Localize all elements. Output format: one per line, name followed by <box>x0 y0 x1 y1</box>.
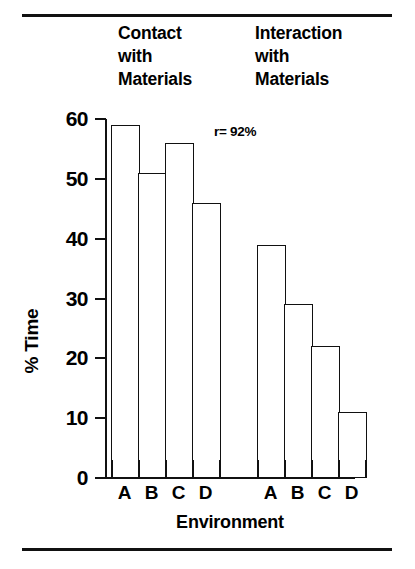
y-axis-label: % Time <box>21 286 43 396</box>
x-axis-ticks <box>107 460 357 478</box>
bar-g2-A <box>257 245 286 478</box>
x-tick-g1-2 <box>165 460 167 478</box>
bar-g1-A <box>111 125 140 478</box>
x-category-g2-B: B <box>284 482 311 504</box>
x-category-g1-C: C <box>165 482 192 504</box>
y-tick-20 <box>95 357 106 359</box>
y-tick-40 <box>95 238 106 240</box>
y-tick-label-30: 30 <box>42 288 88 309</box>
y-tick-50 <box>95 178 106 180</box>
x-tick-g2-0 <box>257 460 259 478</box>
x-category-g1-D: D <box>192 482 219 504</box>
x-tick-g2-2 <box>311 460 313 478</box>
x-tick-g2-4 <box>365 460 367 478</box>
bar-g2-C <box>311 346 340 478</box>
y-tick-label-10: 10 <box>42 407 88 428</box>
bars-container <box>107 119 357 478</box>
y-tick-label-40: 40 <box>42 228 88 249</box>
x-category-g1-A: A <box>111 482 138 504</box>
y-tick-label-0: 0 <box>42 467 88 488</box>
bar-g1-C <box>165 143 194 478</box>
bar-group-2 <box>257 119 365 478</box>
x-axis-label: Environment <box>105 512 355 533</box>
x-category-g2-A: A <box>257 482 284 504</box>
y-tick-60 <box>95 118 106 120</box>
y-tick-label-50: 50 <box>42 168 88 189</box>
x-tick-g2-1 <box>284 460 286 478</box>
x-tick-g1-4 <box>219 460 221 478</box>
x-tick-g1-1 <box>138 460 140 478</box>
x-tick-g1-0 <box>111 460 113 478</box>
bar-g1-B <box>138 173 167 478</box>
y-tick-label-20: 20 <box>42 347 88 368</box>
x-tick-g1-3 <box>192 460 194 478</box>
figure: Contact with Materials Interaction with … <box>0 0 415 569</box>
plot-area: 0102030405060 % Time r= 92% ABCDABCD Env… <box>0 0 415 569</box>
y-tick-30 <box>95 298 106 300</box>
x-category-g2-D: D <box>338 482 365 504</box>
x-category-g1-B: B <box>138 482 165 504</box>
x-category-g2-C: C <box>311 482 338 504</box>
y-tick-0 <box>95 477 106 479</box>
bar-g2-B <box>284 304 313 478</box>
bar-group-1 <box>111 119 219 478</box>
bar-g1-D <box>192 203 221 478</box>
x-tick-g2-3 <box>338 460 340 478</box>
y-tick-10 <box>95 417 106 419</box>
y-tick-label-60: 60 <box>42 108 88 129</box>
